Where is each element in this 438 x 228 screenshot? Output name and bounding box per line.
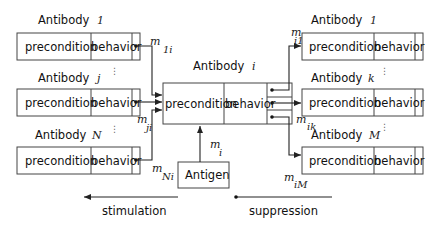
left-antibody-j-behavior: behavior [91,96,142,110]
left-antibody-j: Antibody j precondition behavior [17,71,142,116]
antigen: Antigen [178,162,230,188]
antibody-network-diagram: Antibody 1 precondition behavior ⋮ Antib… [0,0,438,228]
left-antibody-1-index: 1 [97,14,104,27]
left-antibody-1-behavior: behavior [91,40,142,54]
right-antibody-k-label: Antibody [311,71,362,85]
ellipsis-icon: ⋮ [110,124,119,134]
edge-ni-sub: Ni [161,171,174,182]
right-antibody-1-precondition: precondition [309,40,381,54]
ellipsis-icon: ⋮ [380,122,389,132]
edge-ji-sub: ji [144,122,152,133]
ellipsis-icon: ⋮ [380,66,389,76]
edge-im-label: m [284,171,294,184]
edge-1i-sub: 1i [163,44,173,55]
right-antibody-k-behavior: behavior [374,96,425,110]
stimulation-label: stimulation [102,204,166,218]
right-antibody-k: Antibody k precondition behavior [302,71,425,116]
ellipsis-icon: ⋮ [110,66,119,76]
left-antibody-j-precondition: precondition [25,96,97,110]
right-antibody-m-precondition: precondition [309,154,381,168]
left-antibody-n-behavior: behavior [91,154,142,168]
left-antibody-n-label: Antibody [35,128,86,142]
right-antibody-m-label: Antibody [311,128,362,142]
center-antibody-index: i [252,60,256,73]
left-antibody-n-precondition: precondition [25,154,97,168]
legend-stimulation: stimulation [84,197,178,218]
edge-im-sub: iM [294,179,308,190]
edge-antigen-sub: i [219,147,222,158]
right-antibody-k-precondition: precondition [309,96,381,110]
left-antibody-j-label: Antibody [38,71,89,85]
center-antibody-label: Antibody [193,59,244,73]
right-antibody-1-label: Antibody [311,13,362,27]
left-antibody-1-precondition: precondition [25,40,97,54]
left-antibody-n-index: N [91,129,102,142]
right-antibody-m-behavior: behavior [374,154,425,168]
right-antibody-1-index: 1 [370,14,377,27]
antigen-label: Antigen [185,168,230,182]
left-antibody-1-label: Antibody [38,13,89,27]
suppression-dot-icon [234,195,238,199]
right-antibody-k-index: k [368,72,375,85]
center-antibody-i: Antibody i precondition behavior [163,59,292,124]
center-antibody-behavior: behavior [225,97,276,111]
right-antibody-1: Antibody 1 precondition behavior [302,13,425,60]
left-antibody-j-index: j [94,72,101,85]
right-antibody-m: Antibody M precondition behavior [302,128,425,174]
suppression-label: suppression [249,204,318,218]
left-antibody-n: Antibody N precondition behavior [17,128,142,174]
edge-ni-label: m [152,162,162,175]
right-antibody-m-index: M [368,129,381,142]
edge-1i-label: m [150,35,160,48]
left-antibody-1: Antibody 1 precondition behavior [17,13,142,60]
right-antibody-1-behavior: behavior [374,40,425,54]
legend-suppression: suppression [234,195,332,218]
